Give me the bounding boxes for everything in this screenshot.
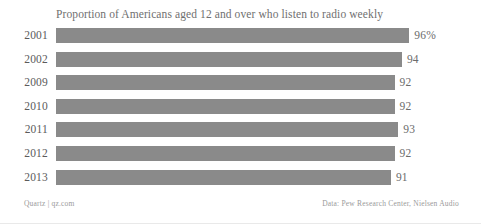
bar-row: 200196% — [0, 26, 481, 50]
bar-track: 92 — [56, 75, 481, 90]
bar-track: 96% — [56, 28, 481, 43]
chart-footer: Quartz | qz.com Data: Pew Research Cente… — [0, 199, 481, 211]
bar-fill — [56, 146, 395, 161]
bar-row: 200992 — [0, 73, 481, 97]
bar-row: 200294 — [0, 50, 481, 74]
bar-category-label: 2002 — [0, 53, 48, 65]
bar-category-label: 2011 — [0, 123, 48, 135]
chart-plot-area: 200196%200294200992201092201193201292201… — [0, 26, 481, 192]
bar-fill — [56, 99, 395, 114]
bar-track: 93 — [56, 122, 481, 137]
radio-listenership-bar-chart: Proportion of Americans aged 12 and over… — [0, 0, 481, 224]
bar-track: 94 — [56, 52, 481, 67]
bar-track: 92 — [56, 146, 481, 161]
bar-fill — [56, 75, 395, 90]
bar-value-label: 96% — [414, 29, 436, 41]
bar-category-label: 2001 — [0, 29, 48, 41]
bar-row: 201092 — [0, 97, 481, 121]
bar-fill — [56, 122, 398, 137]
bar-value-label: 93 — [403, 123, 415, 135]
footer-source-right: Data: Pew Research Center, Nielsen Audio — [322, 199, 459, 208]
bar-value-label: 92 — [400, 76, 412, 88]
bar-category-label: 2010 — [0, 100, 48, 112]
bar-value-label: 92 — [400, 100, 412, 112]
bar-fill — [56, 52, 402, 67]
bar-row: 201292 — [0, 144, 481, 168]
bar-value-label: 92 — [400, 147, 412, 159]
bar-value-label: 91 — [396, 171, 408, 183]
bar-row: 201193 — [0, 120, 481, 144]
bar-track: 91 — [56, 170, 481, 185]
footer-source-left: Quartz | qz.com — [24, 199, 75, 208]
bar-fill — [56, 28, 409, 43]
bar-fill — [56, 170, 391, 185]
bar-track: 92 — [56, 99, 481, 114]
chart-title: Proportion of Americans aged 12 and over… — [56, 8, 383, 20]
bar-category-label: 2009 — [0, 76, 48, 88]
bar-category-label: 2012 — [0, 147, 48, 159]
bar-category-label: 2013 — [0, 171, 48, 183]
bar-value-label: 94 — [407, 53, 419, 65]
bar-row: 201391 — [0, 168, 481, 192]
